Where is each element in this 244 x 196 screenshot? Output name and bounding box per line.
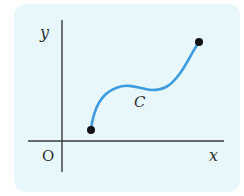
origin-label: O bbox=[42, 147, 54, 165]
curve-label: C bbox=[134, 93, 146, 111]
curve-c bbox=[91, 42, 199, 130]
x-axis-label: x bbox=[209, 146, 218, 165]
end-point bbox=[195, 38, 203, 46]
start-point bbox=[87, 126, 95, 134]
y-axis-label: y bbox=[39, 23, 50, 42]
curve-diagram: y x O C bbox=[0, 0, 244, 196]
